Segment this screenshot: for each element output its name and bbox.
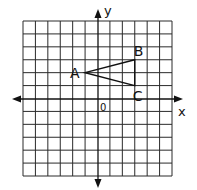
vertex-labels: ABC: [70, 43, 143, 104]
y-axis-down-arrow-icon: [95, 179, 102, 188]
x-axis-right-arrow-icon: [174, 96, 183, 103]
origin-label: 0: [100, 102, 106, 113]
y-axis-up-arrow-icon: [95, 9, 102, 18]
vertex-label-b: B: [134, 43, 144, 59]
coordinate-plane: y x 0 ABC: [0, 0, 197, 190]
x-axis-label: x: [178, 104, 186, 119]
x-axis-left-arrow-icon: [12, 96, 21, 103]
vertex-label-a: A: [70, 65, 80, 81]
y-axis-label: y: [104, 3, 112, 18]
vertex-label-c: C: [133, 88, 143, 104]
axes: [12, 9, 183, 188]
